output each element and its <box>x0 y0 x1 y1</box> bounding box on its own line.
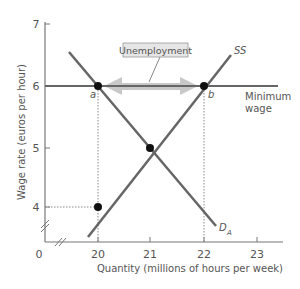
point-supply-20 <box>94 203 102 211</box>
label-a: a <box>90 89 96 100</box>
demand-curve <box>69 52 216 226</box>
demand-label: D <box>219 222 227 233</box>
label-b: b <box>208 89 214 100</box>
minimum-wage-label-line2: wage <box>245 103 272 114</box>
x-tick-20: 20 <box>91 248 105 261</box>
x-axis-label: Quantity (millions of hours per week) <box>97 263 283 274</box>
demand-label-subscript: A <box>226 229 232 237</box>
x-tick-22: 22 <box>197 248 211 261</box>
x-tick-0: 0 <box>36 248 43 261</box>
supply-curve <box>88 55 231 237</box>
y-tick-7: 7 <box>33 18 40 31</box>
unemployment-label: Unemployment <box>119 45 192 56</box>
x-tick-21: 21 <box>143 248 157 261</box>
point-equilibrium <box>146 144 154 152</box>
y-tick-5: 5 <box>33 142 40 155</box>
y-tick-6: 6 <box>33 80 40 93</box>
unemployment-leader <box>149 57 160 82</box>
y-tick-4: 4 <box>33 201 40 214</box>
supply-label: SS <box>234 45 247 56</box>
point-b <box>200 82 208 90</box>
chart: 7 6 5 4 0 20 21 22 23 Quantity (millions… <box>0 0 300 289</box>
x-tick-23: 23 <box>250 248 264 261</box>
minimum-wage-label-line1: Minimum <box>245 91 291 102</box>
y-axis-label: Wage rate (euros per hour) <box>16 64 27 200</box>
